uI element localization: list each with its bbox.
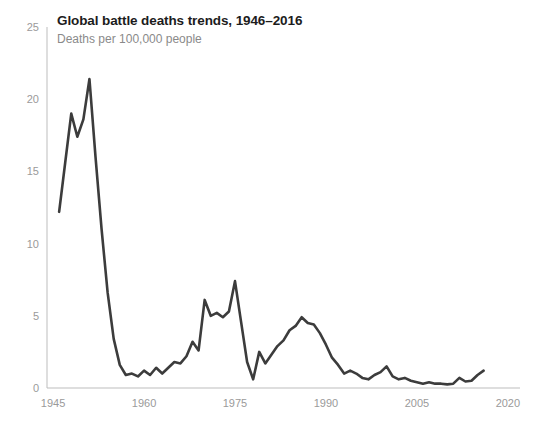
x-tick-label: 1990 bbox=[314, 397, 338, 409]
y-tick-label: 0 bbox=[33, 382, 39, 394]
y-tick-label: 15 bbox=[27, 165, 39, 177]
y-axis: 0510152025 bbox=[27, 21, 47, 394]
y-tick-label: 10 bbox=[27, 238, 39, 250]
x-tick-label: 2020 bbox=[496, 397, 520, 409]
x-tick-label: 1945 bbox=[41, 397, 65, 409]
x-tick-label: 1975 bbox=[223, 397, 247, 409]
footer-spacer bbox=[0, 414, 539, 428]
x-axis: 194519601975199020052020 bbox=[41, 388, 520, 409]
line-chart-svg: 0510152025 194519601975199020052020 bbox=[0, 0, 539, 428]
data-series-group bbox=[59, 79, 483, 384]
data-line-battle-deaths bbox=[59, 79, 483, 384]
chart-container: Global battle deaths trends, 1946–2016 D… bbox=[0, 0, 539, 428]
y-tick-label: 5 bbox=[33, 310, 39, 322]
y-tick-label: 25 bbox=[27, 21, 39, 33]
x-tick-label: 1960 bbox=[132, 397, 156, 409]
y-tick-label: 20 bbox=[27, 93, 39, 105]
x-tick-label: 2005 bbox=[405, 397, 429, 409]
